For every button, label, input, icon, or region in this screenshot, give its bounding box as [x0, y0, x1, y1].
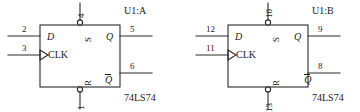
ff-a-reset-bubble [77, 87, 82, 92]
ff-b-reference-designator: U1:B [312, 6, 334, 16]
ff-a-port-set-label: S [84, 37, 93, 42]
ff-b-port-q-label: Q [294, 32, 301, 42]
ff-b-pin-reset-number: 13 [265, 103, 274, 112]
ff-b-port-reset-label: R [272, 80, 281, 86]
ff-b-set-bubble [265, 20, 270, 25]
ff-a-port-clk-label: CLK [48, 50, 68, 60]
ff-a-reference-designator: U1:A [124, 6, 146, 16]
ff-a-qbar-text: Q [105, 74, 112, 85]
ff-b-port-qbar-label: Q [304, 75, 311, 85]
ff-b-reset-bubble [265, 87, 270, 92]
ff-b-port-clk-label: CLK [236, 50, 256, 60]
ff-b-qbar-overline [304, 74, 310, 75]
ff-b-pin-clk-number: 11 [206, 44, 215, 53]
ff-b-pin-q-number: 9 [318, 25, 323, 34]
ff-b-pin-set-number: 10 [265, 9, 274, 18]
ff-a-pin-qbar-number: 6 [130, 62, 135, 71]
ff-a-set-bubble [77, 20, 82, 25]
ff-a-pin-set-number: 4 [77, 14, 86, 19]
ff-a-pin-q-number: 5 [130, 25, 135, 34]
ff-a-port-q-label: Q [106, 32, 113, 42]
ff-a-qbar-overline [105, 74, 111, 75]
ff-a-port-qbar-label: Q [105, 75, 112, 85]
ff-a-port-d-label: D [47, 32, 54, 42]
ff-a-pin-reset-number: 1 [77, 106, 86, 111]
ff-b-port-set-label: S [272, 37, 281, 42]
ff-b-part-number: 74LS74 [312, 93, 344, 103]
ff-a-part-number: 74LS74 [124, 93, 156, 103]
ff-b-qbar-text: Q [304, 74, 311, 85]
ff-a-pin-d-number: 2 [22, 25, 27, 34]
ff-b-pin-d-number: 12 [206, 25, 215, 34]
ff-a-port-reset-label: R [84, 80, 93, 86]
ff-b-clk-triangle [228, 50, 236, 60]
ff-b-port-d-label: D [235, 32, 242, 42]
ff-b-pin-qbar-number: 8 [318, 62, 323, 71]
ff-a-pin-clk-number: 3 [22, 44, 27, 53]
ff-a-clk-triangle [40, 50, 48, 60]
